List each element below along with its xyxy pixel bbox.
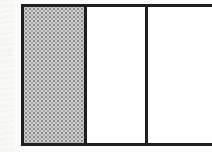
fraction-bar — [21, 4, 212, 146]
scanned-diagram — [0, 0, 212, 152]
bar-section-1-shaded — [24, 7, 87, 143]
bar-section-2-plain — [87, 7, 148, 143]
bar-section-3-plain — [148, 7, 212, 143]
scan-noise-artifact — [0, 0, 14, 152]
